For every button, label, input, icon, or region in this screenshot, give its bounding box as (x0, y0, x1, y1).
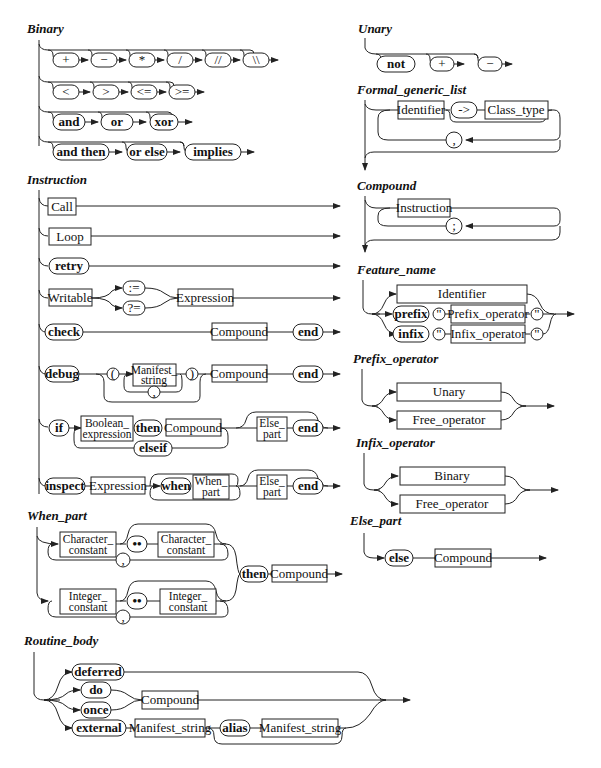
unary-title: Unary (358, 21, 392, 36)
svg-text:\\: \\ (252, 52, 260, 67)
svg-text:Manifest_string: Manifest_string (259, 720, 342, 735)
svg-text:and: and (59, 114, 81, 129)
when-part-diagram: When_part , Character_ constant •• Chara… (27, 508, 342, 624)
svg-text:Writable: Writable (48, 290, 93, 305)
svg-text:external: external (76, 720, 122, 735)
svg-text:Binary: Binary (434, 468, 470, 483)
svg-text:Compound: Compound (141, 692, 199, 707)
unary-diagram: Unary not + − (358, 21, 512, 72)
svg-text:": " (534, 306, 539, 321)
svg-text:once: once (83, 702, 109, 717)
svg-text:Loop: Loop (56, 229, 83, 244)
svg-text:constant: constant (69, 601, 108, 613)
svg-text:expression: expression (82, 428, 131, 441)
svg-text:then: then (136, 420, 161, 435)
svg-text:Expression: Expression (89, 478, 147, 493)
svg-text:Compound: Compound (164, 420, 222, 435)
compound-title: Compound (357, 178, 417, 193)
svg-text:end: end (298, 420, 319, 435)
svg-text:>: > (102, 84, 109, 99)
svg-text:Compound: Compound (210, 324, 268, 339)
svg-text:constant: constant (167, 544, 206, 556)
svg-text:/: / (178, 52, 182, 67)
prefix-operator-diagram: Prefix_operator Unary Free_operator (353, 351, 554, 429)
svg-text:Compound: Compound (210, 366, 268, 381)
svg-text:not: not (387, 56, 406, 71)
svg-text:->: -> (458, 102, 470, 117)
svg-text:end: end (298, 478, 319, 493)
svg-text:,: , (121, 552, 124, 567)
svg-text:,: , (152, 384, 155, 399)
binary-row4: and then or else implies (53, 142, 254, 160)
svg-text:+: + (438, 56, 445, 71)
svg-text:then: then (242, 566, 267, 581)
svg-text:Infix_operator: Infix_operator (450, 326, 526, 341)
svg-text:Free_operator: Free_operator (416, 496, 490, 511)
svg-text:Compound: Compound (270, 566, 328, 581)
svg-text:(: ( (111, 366, 115, 381)
svg-text:Free_operator: Free_operator (413, 412, 487, 427)
infix-operator-title: Infix_operator (355, 435, 436, 450)
svg-text:Unary: Unary (433, 384, 466, 399)
binary-row2: < > <= >= (53, 82, 204, 99)
svg-text:prefix: prefix (395, 306, 428, 321)
svg-text:,: , (121, 609, 124, 624)
formal-generic-list-diagram: Formal_generic_list Identifier -> Class_… (356, 82, 560, 170)
svg-text:inspect: inspect (46, 478, 86, 493)
binary-title: Binary (26, 21, 64, 36)
svg-text:deferred: deferred (74, 664, 122, 679)
svg-text:debug: debug (45, 366, 79, 381)
svg-text:Identifier: Identifier (438, 286, 487, 301)
svg-text:): ) (190, 366, 194, 381)
svg-text:Compound: Compound (434, 550, 492, 565)
svg-text:xor: xor (155, 114, 174, 129)
svg-text:check: check (48, 324, 81, 339)
binary-row1: + − * / // \\ (53, 50, 278, 67)
svg-text:": " (436, 306, 441, 321)
binary-diagram: Binary + − * / // \\ (26, 21, 278, 160)
svg-text:constant: constant (69, 544, 108, 556)
svg-text:": " (436, 326, 441, 341)
svg-text:••: •• (132, 536, 142, 551)
svg-text:Manifest_string: Manifest_string (129, 720, 212, 735)
svg-text:−: − (100, 52, 107, 67)
svg-text:end: end (298, 366, 319, 381)
prefix-operator-title: Prefix_operator (353, 351, 439, 366)
svg-text:<=: <= (137, 84, 152, 99)
svg-text:part: part (202, 486, 221, 499)
formal-generic-list-title: Formal_generic_list (356, 82, 466, 97)
feature-name-title: Feature_name (356, 262, 436, 277)
svg-text:part: part (263, 486, 282, 499)
svg-text:else: else (389, 550, 409, 565)
binary-row3: and or xor (53, 112, 192, 130)
routine-body-title: Routine_body (23, 633, 99, 648)
svg-text:;: ; (452, 218, 456, 233)
svg-text:?=: ?= (127, 300, 140, 315)
svg-text:Call: Call (51, 199, 73, 214)
svg-text:alias: alias (222, 720, 247, 735)
compound-diagram: Compound Instruction ; (357, 178, 560, 252)
svg-text:part: part (263, 428, 282, 441)
svg-text:Instruction: Instruction (396, 200, 453, 215)
svg-text:+: + (62, 52, 69, 67)
svg-text:": " (534, 326, 539, 341)
svg-text:,: , (452, 132, 455, 147)
svg-text:<: < (62, 84, 69, 99)
svg-text:and then: and then (57, 144, 107, 159)
svg-text:−: − (486, 56, 493, 71)
infix-operator-diagram: Infix_operator Binary Free_operator (355, 435, 558, 513)
svg-text:elseif: elseif (139, 440, 168, 455)
svg-text://: // (214, 52, 222, 67)
routine-body-diagram: Routine_body deferred do once Compound e… (23, 633, 410, 744)
svg-text:retry: retry (55, 258, 83, 273)
else-part-title: Else_part (349, 513, 402, 528)
svg-text:implies: implies (193, 144, 233, 159)
svg-text:*: * (139, 52, 146, 67)
svg-text:end: end (298, 324, 319, 339)
svg-text:••: •• (132, 593, 142, 608)
svg-text:Identifier: Identifier (397, 102, 446, 117)
instruction-diagram: Instruction Call Loop retry Writable := … (26, 172, 340, 500)
else-part-diagram: Else_part else Compound (349, 513, 546, 567)
svg-text:Expression: Expression (176, 290, 234, 305)
svg-text:when: when (161, 478, 191, 493)
